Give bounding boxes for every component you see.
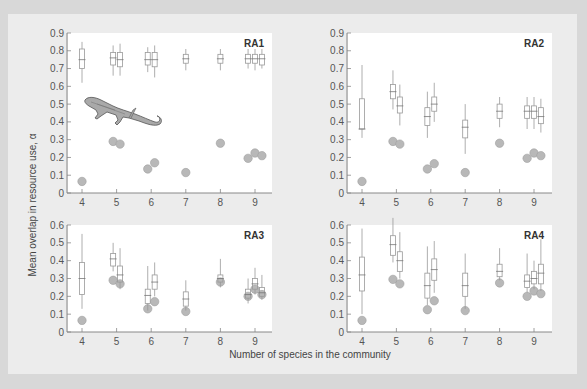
observed-point [423,165,431,173]
x-tick-label: 5 [394,336,400,347]
x-tick-label: 9 [252,336,258,347]
x-tick-label: 8 [218,197,224,208]
x-tick-label: 7 [183,336,189,347]
plot-bg-ra3 [68,225,272,332]
y-tick-label: 0.1 [330,170,344,181]
y-tick-label: 0 [58,188,64,199]
x-tick-label: 5 [114,197,120,208]
y-tick-label: 0.6 [330,220,344,231]
observed-point [495,139,503,147]
x-axis-label: Number of species in the community [229,349,391,360]
observed-point [78,316,86,324]
observed-point [358,316,366,324]
y-tick-label: 0.4 [330,255,344,266]
x-tick-label: 7 [462,336,468,347]
y-tick-label: 0.3 [330,134,344,145]
observed-point [258,151,266,159]
y-tick-label: 0 [338,327,344,338]
y-tick-label: 0 [338,188,344,199]
x-tick-label: 5 [114,336,120,347]
observed-point [358,177,366,185]
observed-point [430,297,438,305]
y-axis-label: Mean overlap in resource use, α [27,133,38,276]
y-tick-label: 0.1 [50,309,64,320]
observed-point [150,159,158,167]
y-tick-label: 0.8 [330,45,344,56]
x-tick-label: 6 [428,336,434,347]
y-tick-label: 0.3 [330,273,344,284]
y-tick-label: 0.9 [330,28,344,39]
y-tick-label: 0.3 [50,134,64,145]
x-tick-label: 9 [252,197,258,208]
observed-point [182,168,190,176]
y-tick-label: 0.5 [50,237,64,248]
observed-point [216,139,224,147]
observed-point [523,154,531,162]
x-tick-label: 6 [148,336,154,347]
x-tick-label: 7 [462,197,468,208]
x-tick-label: 7 [183,197,189,208]
observed-point [144,165,152,173]
x-tick-label: 4 [359,336,365,347]
observed-point [396,280,404,288]
y-tick-label: 0.6 [50,81,64,92]
observed-point [78,177,86,185]
y-tick-label: 0 [58,327,64,338]
plot-bg-ra4 [348,225,552,332]
x-tick-label: 8 [497,336,503,347]
y-tick-label: 0.4 [50,116,64,127]
y-tick-label: 0.2 [50,152,64,163]
y-tick-label: 0.2 [330,291,344,302]
x-tick-label: 4 [79,336,85,347]
panel-title: RA1 [244,38,264,49]
x-tick-label: 6 [148,197,154,208]
panel-title: RA2 [524,38,544,49]
y-tick-label: 0.7 [330,63,344,74]
y-tick-label: 0.6 [50,220,64,231]
x-tick-label: 4 [359,197,365,208]
observed-point [116,140,124,148]
x-tick-label: 9 [531,197,537,208]
y-tick-label: 0.1 [330,309,344,320]
y-tick-label: 0.3 [50,273,64,284]
x-tick-label: 8 [218,336,224,347]
observed-point [150,297,158,305]
x-tick-label: 8 [497,197,503,208]
observed-point [244,154,252,162]
observed-point [523,292,531,300]
plot-bg-ra2 [348,33,552,193]
figure: 00.10.20.30.40.50.60.70.80.9456789RA100.… [0,0,587,389]
y-tick-label: 0.4 [330,116,344,127]
x-tick-label: 9 [531,336,537,347]
observed-point [396,140,404,148]
y-tick-label: 0.5 [50,99,64,110]
x-tick-label: 5 [394,197,400,208]
observed-point [430,159,438,167]
observed-point [537,151,545,159]
y-tick-label: 0.2 [330,152,344,163]
y-tick-label: 0.4 [50,255,64,266]
y-tick-label: 0.9 [50,28,64,39]
observed-point [423,306,431,314]
y-tick-label: 0.5 [330,99,344,110]
y-tick-label: 0.2 [50,291,64,302]
y-tick-label: 0.5 [330,237,344,248]
y-tick-label: 0.6 [330,81,344,92]
x-tick-label: 4 [79,197,85,208]
x-tick-label: 6 [428,197,434,208]
observed-point [461,168,469,176]
panel-title: RA3 [244,230,264,241]
panel-title: RA4 [524,230,544,241]
y-tick-label: 0.1 [50,170,64,181]
y-tick-label: 0.7 [50,63,64,74]
y-tick-label: 0.8 [50,45,64,56]
